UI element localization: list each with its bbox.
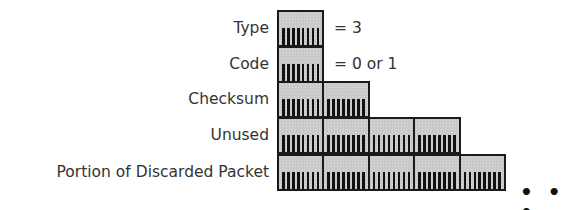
- field-row-discarded-packet: Portion of Discarded Packet: [0, 154, 575, 191]
- bit-tick: [337, 172, 340, 189]
- field-row-type: Type = 3: [0, 10, 575, 47]
- bit-tick: [287, 28, 290, 45]
- bit-tick: [378, 172, 381, 189]
- bit-tick: [332, 172, 335, 189]
- bit-tick: [362, 172, 365, 189]
- bit-tick: [388, 135, 391, 152]
- bit-tick: [312, 64, 315, 81]
- bit-ticks: [282, 64, 319, 81]
- bit-tick: [312, 99, 315, 116]
- byte-cell: [322, 81, 369, 118]
- field-row-checksum: Checksum: [0, 81, 575, 118]
- bit-tick: [453, 135, 456, 152]
- byte-cell: [322, 154, 369, 191]
- field-label: Code: [229, 46, 269, 83]
- bit-tick: [418, 135, 421, 152]
- bit-tick: [307, 172, 310, 189]
- bit-tick: [393, 135, 396, 152]
- packet-format-diagram: Type = 3 Code = 0 or 1 Checksum Unused P…: [0, 0, 575, 210]
- bit-tick: [398, 172, 401, 189]
- bit-tick: [408, 172, 411, 189]
- bit-tick: [332, 99, 335, 116]
- byte-cell: [413, 154, 460, 191]
- bit-tick: [352, 135, 355, 152]
- byte-cell: [413, 117, 460, 154]
- bit-tick: [282, 99, 285, 116]
- bit-tick: [438, 135, 441, 152]
- bit-ticks: [282, 172, 319, 189]
- bit-tick: [423, 135, 426, 152]
- bit-tick: [302, 135, 305, 152]
- bit-ticks: [373, 135, 410, 152]
- bit-tick: [342, 99, 345, 116]
- bit-tick: [297, 64, 300, 81]
- byte-cell: [277, 117, 324, 154]
- byte-cells: [277, 117, 459, 154]
- bit-tick: [464, 172, 467, 189]
- byte-cell: [459, 154, 506, 191]
- bit-tick: [433, 172, 436, 189]
- continuation-ellipsis: • • •: [520, 182, 575, 210]
- bit-tick: [428, 135, 431, 152]
- bit-ticks: [464, 172, 501, 189]
- bit-tick: [433, 135, 436, 152]
- bit-tick: [282, 64, 285, 81]
- bit-tick: [443, 172, 446, 189]
- field-label: Checksum: [188, 81, 269, 118]
- byte-cell: [277, 81, 324, 118]
- field-value: = 3: [334, 10, 362, 47]
- bit-tick: [342, 135, 345, 152]
- bit-tick: [287, 135, 290, 152]
- bit-tick: [282, 28, 285, 45]
- bit-tick: [418, 172, 421, 189]
- bit-tick: [292, 172, 295, 189]
- bit-tick: [307, 99, 310, 116]
- bit-ticks: [327, 135, 364, 152]
- bit-ticks: [418, 135, 455, 152]
- bit-tick: [317, 172, 320, 189]
- bit-tick: [287, 172, 290, 189]
- field-label: Type: [233, 10, 269, 47]
- bit-tick: [373, 135, 376, 152]
- bit-tick: [302, 64, 305, 81]
- bit-tick: [327, 135, 330, 152]
- bit-tick: [332, 135, 335, 152]
- bit-tick: [493, 172, 496, 189]
- bit-tick: [469, 172, 472, 189]
- byte-cell: [368, 117, 415, 154]
- bit-tick: [337, 99, 340, 116]
- bit-tick: [282, 172, 285, 189]
- bit-tick: [443, 135, 446, 152]
- bit-tick: [302, 172, 305, 189]
- bit-tick: [337, 135, 340, 152]
- bit-ticks: [282, 28, 319, 45]
- bit-tick: [483, 172, 486, 189]
- bit-tick: [388, 172, 391, 189]
- bit-tick: [373, 172, 376, 189]
- bit-tick: [478, 172, 481, 189]
- bit-tick: [302, 28, 305, 45]
- bit-tick: [282, 135, 285, 152]
- bit-tick: [383, 135, 386, 152]
- bit-tick: [312, 135, 315, 152]
- byte-cell: [322, 117, 369, 154]
- bit-tick: [357, 135, 360, 152]
- field-label: Unused: [211, 117, 269, 154]
- bit-tick: [362, 135, 365, 152]
- bit-tick: [347, 99, 350, 116]
- bit-tick: [488, 172, 491, 189]
- bit-ticks: [327, 172, 364, 189]
- byte-cells: [277, 154, 504, 191]
- bit-tick: [287, 99, 290, 116]
- bit-ticks: [327, 99, 364, 116]
- byte-cell: [277, 10, 324, 47]
- bit-tick: [453, 172, 456, 189]
- bit-tick: [428, 172, 431, 189]
- byte-cells: [277, 81, 368, 118]
- bit-tick: [347, 135, 350, 152]
- bit-tick: [297, 172, 300, 189]
- bit-tick: [327, 172, 330, 189]
- bit-tick: [383, 172, 386, 189]
- bit-tick: [287, 64, 290, 81]
- bit-tick: [403, 135, 406, 152]
